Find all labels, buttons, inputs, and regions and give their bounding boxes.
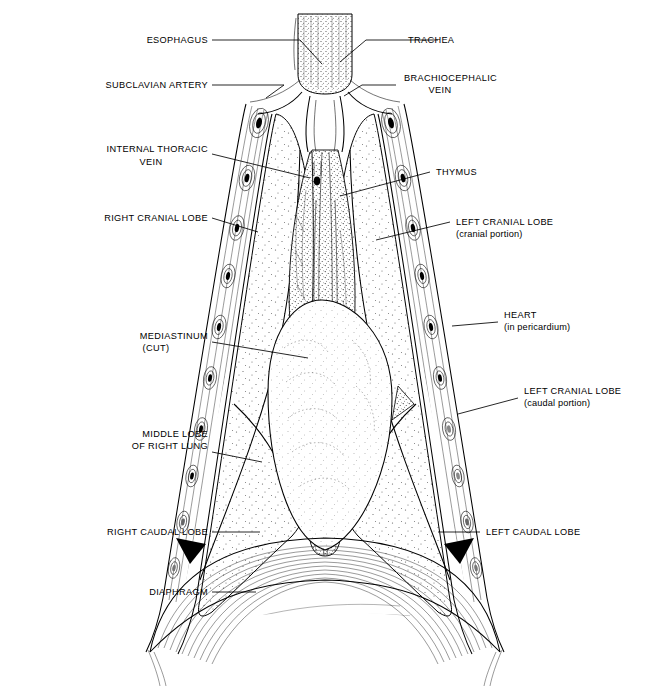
label-right-caudal-lobe: RIGHT CAUDAL LOBE: [107, 527, 208, 537]
label-left-cranial-lobe-caudal-line2: (caudal portion): [524, 398, 590, 408]
label-left-cranial-lobe-cranial: LEFT CRANIAL LOBE: [456, 217, 553, 227]
label-middle-lobe-right-lung: MIDDLE LOBE: [142, 429, 208, 439]
costodiaphragmatic-recess-left: [176, 538, 206, 564]
label-left-cranial-lobe-cranial-line2: (cranial portion): [456, 229, 522, 239]
costodiaphragmatic-recess-right: [444, 538, 474, 564]
label-thymus: THYMUS: [436, 167, 477, 177]
label-internal-thoracic-vein: INTERNAL THORACIC: [107, 144, 208, 154]
thorax-illustration: ESOPHAGUS TRACHEA SUBCLAVIAN ARTERY BRAC…: [0, 0, 650, 692]
label-right-cranial-lobe: RIGHT CRANIAL LOBE: [104, 213, 208, 223]
label-brachiocephalic-vein-line2: VEIN: [429, 85, 452, 95]
label-diaphragm: DIAPHRAGM: [149, 587, 208, 597]
label-middle-lobe-right-lung-line2: OF RIGHT LUNG: [132, 441, 208, 451]
label-esophagus: ESOPHAGUS: [147, 35, 208, 45]
label-left-caudal-lobe: LEFT CAUDAL LOBE: [486, 527, 580, 537]
label-subclavian-artery: SUBCLAVIAN ARTERY: [106, 80, 208, 90]
label-trachea: TRACHEA: [408, 35, 455, 45]
label-internal-thoracic-vein-line2: VEIN: [140, 157, 163, 167]
label-mediastinum: MEDIASTINUM: [140, 331, 208, 341]
label-mediastinum-line2: (CUT): [143, 343, 170, 353]
esophagus: [294, 18, 296, 70]
figure-canvas: ESOPHAGUS TRACHEA SUBCLAVIAN ARTERY BRAC…: [0, 0, 650, 692]
label-heart: HEART: [504, 310, 537, 320]
trachea: [298, 14, 352, 94]
label-brachiocephalic-vein: BRACHIOCEPHALIC: [404, 73, 497, 83]
label-heart-line2: (in pericardium): [504, 322, 570, 332]
label-left-cranial-lobe-caudal: LEFT CRANIAL LOBE: [524, 386, 621, 396]
